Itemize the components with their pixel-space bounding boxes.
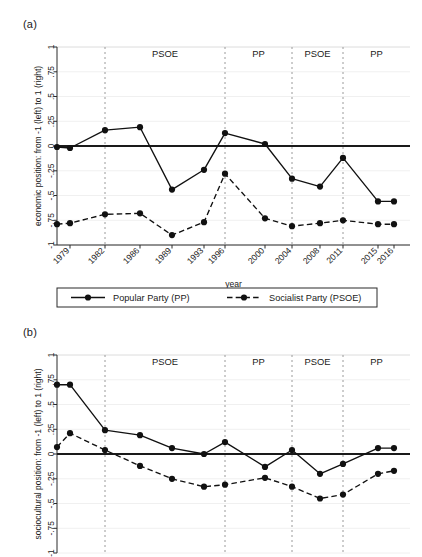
data-point xyxy=(201,167,207,173)
x-tick-label: 2000 xyxy=(246,245,267,266)
data-point xyxy=(102,127,108,133)
y-tick-label: -.25 xyxy=(46,471,56,486)
x-tick-label: 1996 xyxy=(206,245,227,266)
data-point xyxy=(137,124,143,130)
data-point xyxy=(340,461,346,467)
data-point xyxy=(317,184,323,190)
y-tick-label: .5 xyxy=(46,401,56,408)
y-tick-label: -1 xyxy=(46,241,56,249)
legend-marker-psoe xyxy=(241,294,247,300)
data-point xyxy=(67,220,73,226)
data-point xyxy=(262,464,268,470)
data-point xyxy=(67,145,73,151)
y-tick-label: 1 xyxy=(46,352,56,357)
data-point xyxy=(102,447,108,453)
data-point xyxy=(317,220,323,226)
data-point xyxy=(262,141,268,147)
panel-a-plot: -1-.75-.5-.250.25.5.751economic position… xyxy=(0,0,422,315)
data-point xyxy=(317,471,323,477)
legend-label-psoe: Socialist Party (PSOE) xyxy=(269,293,361,303)
period-label: PP xyxy=(252,48,265,59)
data-point xyxy=(375,221,381,227)
data-point xyxy=(201,484,207,490)
data-point xyxy=(262,475,268,481)
data-point xyxy=(391,198,397,204)
y-tick-label: -.75 xyxy=(46,521,56,536)
data-point xyxy=(169,445,175,451)
data-point xyxy=(262,215,268,221)
data-point xyxy=(169,187,175,193)
y-tick-label: .75 xyxy=(46,66,56,78)
y-tick-label: .25 xyxy=(46,423,56,435)
data-point xyxy=(391,221,397,227)
data-point xyxy=(102,427,108,433)
y-axis-title: economic position: from -1 (left) to 1 (… xyxy=(33,66,43,226)
data-point xyxy=(391,468,397,474)
y-tick-label: -.5 xyxy=(46,190,56,200)
panel-a: (a) -1-.75-.5-.250.25.5.751economic posi… xyxy=(0,0,422,315)
y-tick-label: 0 xyxy=(46,451,56,456)
data-point xyxy=(391,445,397,451)
data-point xyxy=(222,439,228,445)
data-point xyxy=(222,130,228,136)
data-point xyxy=(289,223,295,229)
data-point xyxy=(222,482,228,488)
data-point xyxy=(67,382,73,388)
y-tick-label: -1 xyxy=(46,549,56,557)
data-point xyxy=(137,210,143,216)
data-point xyxy=(289,447,295,453)
x-tick-label: 2008 xyxy=(301,245,322,266)
data-point xyxy=(375,445,381,451)
data-point xyxy=(317,495,323,501)
data-point xyxy=(67,430,73,436)
period-label: PP xyxy=(252,356,265,367)
legend-label-pp: Popular Party (PP) xyxy=(113,293,190,303)
data-point xyxy=(54,444,60,450)
x-tick-label: 2004 xyxy=(273,245,294,266)
x-tick-label: 1986 xyxy=(121,245,142,266)
period-label: PSOE xyxy=(152,48,178,59)
data-point xyxy=(169,476,175,482)
y-tick-label: .25 xyxy=(46,115,56,127)
data-point xyxy=(201,219,207,225)
x-tick-label: 2011 xyxy=(324,245,344,265)
data-point xyxy=(340,155,346,161)
data-point xyxy=(340,217,346,223)
data-point xyxy=(289,176,295,182)
panel-b-plot: -1-.75-.5-.250.25.5.751sociocultural pos… xyxy=(0,320,422,557)
data-point xyxy=(375,471,381,477)
y-tick-label: -.25 xyxy=(46,163,56,178)
data-point xyxy=(137,432,143,438)
data-point xyxy=(289,484,295,490)
data-point xyxy=(54,221,60,227)
data-point xyxy=(54,382,60,388)
y-tick-label: .5 xyxy=(46,93,56,100)
figure-container: (a) -1-.75-.5-.250.25.5.751economic posi… xyxy=(0,0,422,557)
data-point xyxy=(222,171,228,177)
y-axis-title: sociocultural position: from -1 (left) t… xyxy=(33,368,43,539)
data-point xyxy=(169,232,175,238)
y-tick-label: 1 xyxy=(46,44,56,49)
x-tick-label: 1993 xyxy=(185,245,206,266)
data-point xyxy=(54,144,60,150)
data-point xyxy=(340,492,346,498)
period-label: PSOE xyxy=(304,48,330,59)
period-label: PP xyxy=(370,356,383,367)
data-point xyxy=(137,463,143,469)
period-label: PSOE xyxy=(152,356,178,367)
data-point xyxy=(201,451,207,457)
panel-b: (b) -1-.75-.5-.250.25.5.751sociocultural… xyxy=(0,320,422,557)
period-label: PSOE xyxy=(304,356,330,367)
x-tick-label: 1982 xyxy=(86,245,107,266)
x-tick-label: 2015 xyxy=(359,245,380,266)
legend-marker-pp xyxy=(85,294,91,300)
data-point xyxy=(375,198,381,204)
period-label: PP xyxy=(370,48,383,59)
data-point xyxy=(102,211,108,217)
x-tick-label: 1989 xyxy=(153,245,174,266)
y-tick-label: -.5 xyxy=(46,498,56,508)
